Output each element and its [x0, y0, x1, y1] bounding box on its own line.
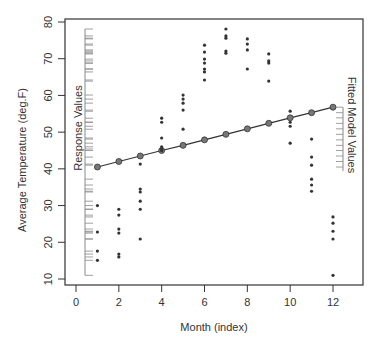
fitted-rug [336, 107, 343, 171]
fitted-point [202, 137, 208, 143]
response-point [203, 78, 206, 81]
response-point [203, 62, 206, 65]
response-point [310, 156, 313, 159]
fitted-point [244, 126, 250, 132]
response-point [310, 178, 313, 181]
x-tick-label: 8 [244, 296, 250, 308]
response-point [246, 48, 249, 51]
response-point [96, 230, 99, 233]
response-point [289, 121, 292, 124]
response-point [139, 190, 142, 193]
response-point [96, 259, 99, 262]
response-point [139, 237, 142, 240]
response-point [310, 138, 313, 141]
y-tick-label: 60 [42, 89, 54, 101]
fitted-point [223, 131, 229, 137]
response-point [331, 215, 334, 218]
response-point [310, 190, 313, 193]
response-point [139, 187, 142, 190]
y-axis: 1020304050607080 [42, 16, 65, 285]
x-tick-label: 0 [73, 296, 79, 308]
response-point [117, 232, 120, 235]
x-tick-label: 10 [284, 296, 296, 308]
response-point [289, 142, 292, 145]
response-point [203, 51, 206, 54]
response-point [117, 208, 120, 211]
fitted-point [266, 120, 272, 126]
response-point [224, 52, 227, 55]
response-point [224, 37, 227, 40]
x-tick-label: 12 [327, 296, 339, 308]
fitted-line-series [94, 104, 336, 170]
response-point [160, 149, 163, 152]
x-tick-label: 2 [116, 296, 122, 308]
x-axis: 024681012 [73, 285, 339, 308]
fitted-values-label: Fitted Model Values [346, 77, 358, 174]
response-point [160, 136, 163, 139]
y-tick-label: 30 [42, 199, 54, 211]
response-point [117, 252, 120, 255]
fitted-point [330, 104, 336, 110]
response-point [181, 102, 184, 105]
response-point [160, 117, 163, 120]
response-point [331, 230, 334, 233]
response-point [203, 67, 206, 70]
y-tick-label: 40 [42, 163, 54, 175]
response-point [181, 109, 184, 112]
response-point [267, 80, 270, 83]
response-point [246, 42, 249, 45]
response-point [160, 121, 163, 124]
response-point [203, 57, 206, 60]
response-point [310, 164, 313, 167]
response-point [117, 214, 120, 217]
response-point [181, 98, 184, 101]
chart: 024681012 1020304050607080 Month (index)… [0, 0, 381, 351]
y-tick-label: 20 [42, 236, 54, 248]
response-point [331, 237, 334, 240]
fitted-point [287, 115, 293, 121]
response-point [310, 183, 313, 186]
response-point [331, 274, 334, 277]
fitted-point [309, 110, 315, 116]
y-tick-label: 10 [42, 273, 54, 285]
y-tick-label: 70 [42, 53, 54, 65]
response-point [289, 125, 292, 128]
response-points-series [96, 27, 335, 277]
response-point [267, 62, 270, 65]
y-tick-label: 50 [42, 126, 54, 138]
y-axis-label: Average Temperature (deg.F) [16, 88, 28, 232]
response-point [139, 208, 142, 211]
x-axis-label: Month (index) [180, 321, 247, 333]
x-tick-label: 6 [201, 296, 207, 308]
response-values-label: Response Values [72, 85, 84, 171]
y-tick-label: 80 [42, 16, 54, 28]
response-point [96, 204, 99, 207]
response-point [139, 162, 142, 165]
response-point [139, 200, 142, 203]
response-rug [85, 29, 93, 275]
response-point [224, 27, 227, 30]
response-point [117, 255, 120, 258]
response-point [331, 222, 334, 225]
response-point [96, 249, 99, 252]
response-point [203, 44, 206, 47]
response-point [117, 227, 120, 230]
fitted-line [97, 107, 333, 167]
plot-frame [65, 19, 363, 285]
fitted-point [94, 164, 100, 170]
fitted-point [116, 159, 122, 165]
response-point [203, 70, 206, 73]
response-point [289, 110, 292, 113]
response-point [181, 93, 184, 96]
fitted-point [180, 142, 186, 148]
response-point [246, 67, 249, 70]
x-tick-label: 4 [159, 296, 165, 308]
response-point [246, 37, 249, 40]
response-point [181, 128, 184, 131]
response-point [267, 52, 270, 55]
fitted-point [137, 153, 143, 159]
